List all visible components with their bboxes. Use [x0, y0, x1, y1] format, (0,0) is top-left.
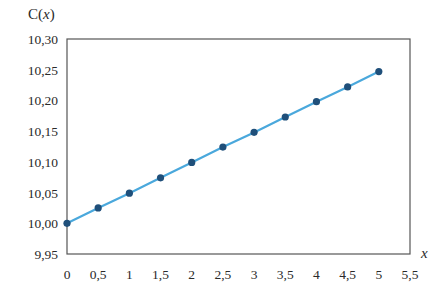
y-axis-title: C(x) [28, 6, 55, 23]
x-tick-label: 1,5 [152, 267, 169, 282]
x-tick-label: 2 [188, 267, 195, 282]
data-point-marker [219, 144, 226, 151]
x-tick-label: 5 [375, 267, 382, 282]
data-point-marker [282, 113, 289, 120]
x-tick-label: 5,5 [402, 267, 419, 282]
data-point-marker [157, 174, 164, 181]
data-point-marker [250, 129, 257, 136]
data-point-marker [63, 220, 70, 227]
data-point-marker [375, 68, 382, 75]
y-tick-label: 10,20 [28, 93, 59, 108]
data-series-markers [63, 68, 382, 227]
y-tick-label: 9,95 [34, 247, 58, 262]
plot-frame [67, 39, 410, 254]
line-chart: 9,9510,0010,0510,1010,1510,2010,2510,30 … [0, 0, 435, 294]
y-tick-label: 10,15 [28, 124, 59, 139]
data-point-marker [344, 83, 351, 90]
x-tick-label: 4 [313, 267, 320, 282]
x-tick-label: 1 [126, 267, 133, 282]
x-tick-label: 2,5 [214, 267, 231, 282]
y-tick-label: 10,30 [28, 32, 59, 47]
x-tick-label: 0 [64, 267, 71, 282]
data-point-marker [313, 98, 320, 105]
x-axis-title: x [420, 245, 428, 261]
data-point-marker [95, 204, 102, 211]
y-axis-title-fn: C( [28, 6, 43, 23]
x-axis-ticks: 00,511,522,533,544,555,5 [64, 267, 419, 282]
y-axis-ticks: 9,9510,0010,0510,1010,1510,2010,2510,30 [28, 32, 59, 262]
x-tick-label: 4,5 [339, 267, 356, 282]
y-tick-label: 10,05 [28, 186, 59, 201]
x-tick-label: 3,5 [277, 267, 294, 282]
y-tick-label: 10,10 [28, 155, 59, 170]
plot-border [67, 39, 410, 254]
y-tick-label: 10,00 [28, 216, 59, 231]
y-axis-title-close: ) [50, 6, 55, 23]
data-point-marker [188, 159, 195, 166]
x-tick-label: 3 [251, 267, 258, 282]
y-tick-label: 10,25 [28, 63, 59, 78]
data-point-marker [126, 190, 133, 197]
x-tick-label: 0,5 [90, 267, 107, 282]
